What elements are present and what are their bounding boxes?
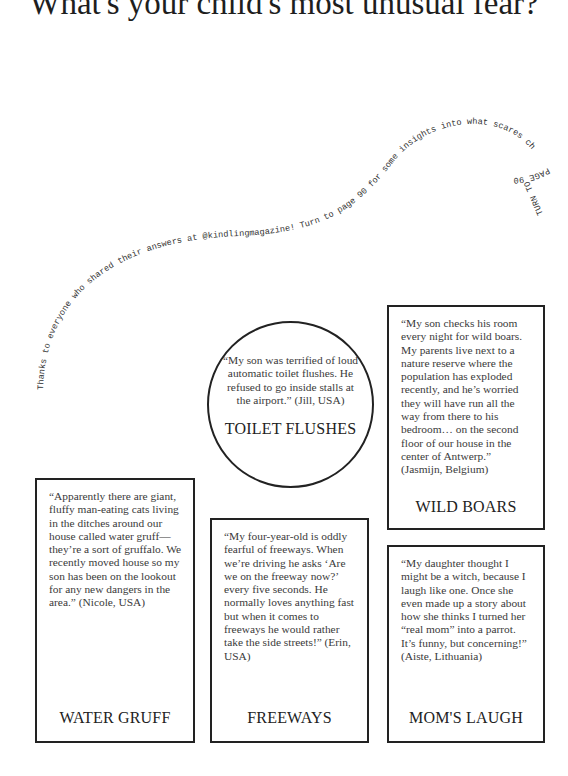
fear-quote: “My son checks his room every night for … bbox=[389, 307, 543, 477]
fear-card-water-gruff: “Apparently there are giant, fluffy man-… bbox=[35, 478, 195, 743]
fear-label: WATER GRUFF bbox=[37, 709, 193, 727]
turn-to-page-note: TURN TO bbox=[522, 180, 545, 217]
fear-card-moms-laugh: “My daughter thought I might be a witch,… bbox=[387, 545, 545, 743]
fear-quote: “My four-year-old is oddly fearful of fr… bbox=[212, 520, 367, 663]
fear-label: TOILET FLUSHES bbox=[209, 419, 372, 438]
turn-note-line1: TURN TO bbox=[522, 180, 545, 217]
fear-card-toilet-flushes: “My son was terrified of loud automatic … bbox=[207, 321, 374, 488]
turn-to-page-note-2: PAGE 90 bbox=[513, 165, 551, 185]
fear-card-freeways: “My four-year-old is oddly fearful of fr… bbox=[210, 518, 369, 743]
fear-card-wild-boars: “My son checks his room every night for … bbox=[387, 305, 545, 530]
turn-note-line2: PAGE 90 bbox=[513, 165, 551, 185]
fear-label: FREEWAYS bbox=[212, 709, 367, 727]
title-text: What's your child's most unusual fear? bbox=[29, 0, 539, 21]
fear-quote: “My son was terrified of loud automatic … bbox=[209, 323, 372, 407]
fear-quote: “Apparently there are giant, fluffy man-… bbox=[37, 480, 193, 610]
page-title: What's your child's most unusual fear? bbox=[0, 0, 568, 22]
fear-label: WILD BOARS bbox=[389, 498, 543, 516]
fear-quote: “My daughter thought I might be a witch,… bbox=[389, 547, 543, 663]
fear-label: MOM'S LAUGH bbox=[389, 709, 543, 727]
